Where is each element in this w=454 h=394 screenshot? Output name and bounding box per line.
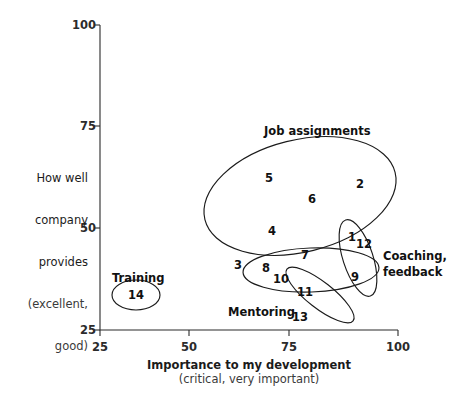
data-point-9: 9 [351,270,359,284]
cluster-label-mentoring: Mentoring [228,305,295,319]
y-axis-title-line-2: company [0,213,88,227]
data-point-8: 8 [262,261,270,275]
scatter-chart-figure: 100 75 50 25 25 50 75 100 How well compa… [0,0,454,394]
data-point-1: 1 [348,230,356,244]
x-tick-label-100: 100 [384,340,412,354]
cluster-label-job-assignments: Job assignments [264,124,371,138]
data-point-6: 6 [308,192,316,206]
data-point-7: 7 [301,248,309,262]
y-tick-label-100: 100 [72,18,96,32]
cluster-label-coaching-feedback-line-1: Coaching, [383,249,447,263]
data-point-10: 10 [273,272,289,286]
y-axis-title: How well company provides (excellent, go… [0,143,88,381]
y-axis-title-line-1: How well [0,171,88,185]
x-tick-label-25: 25 [88,340,112,354]
x-axis-subtitle: (critical, very important) [100,372,398,386]
x-tick-label-50: 50 [177,340,201,354]
y-axis-title-line-3: provides [0,255,88,269]
data-point-2: 2 [356,177,364,191]
data-point-5: 5 [265,171,273,185]
data-point-3: 3 [234,258,242,272]
cluster-outline-coaching-feedback [331,215,384,300]
y-axis-title-line-5: good) [0,339,88,353]
cluster-label-coaching-feedback-line-2: feedback [383,265,442,279]
y-axis-title-line-4: (excellent, [0,297,88,311]
data-point-13: 13 [292,310,308,324]
data-point-11: 11 [297,285,313,299]
data-point-12: 12 [356,237,372,251]
y-tick-label-75: 75 [72,119,96,133]
data-point-14: 14 [128,288,144,302]
data-point-4: 4 [268,224,276,238]
x-axis-title: Importance to my development [100,358,398,372]
cluster-label-training: Training [112,271,165,285]
x-tick-label-75: 75 [277,340,301,354]
